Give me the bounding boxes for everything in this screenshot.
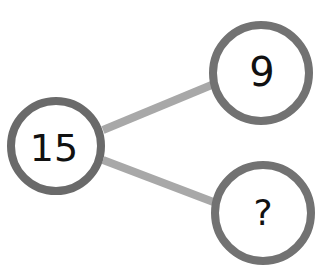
part-node-bottom: ?: [215, 165, 311, 261]
number-bond-diagram: 15 9 ?: [0, 0, 332, 272]
part-top-value: 9: [249, 49, 274, 95]
connector-bottom: [103, 160, 216, 203]
part-bottom-value[interactable]: ?: [253, 192, 272, 233]
whole-value: 15: [30, 126, 78, 170]
whole-node: 15: [11, 101, 101, 191]
part-node-top: 9: [213, 25, 309, 121]
connector-top: [103, 84, 214, 130]
